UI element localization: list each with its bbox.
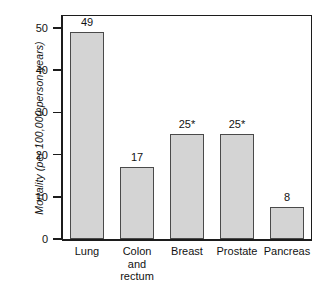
y-axis-tick-label: 40	[26, 65, 48, 76]
bar	[170, 134, 204, 240]
y-axis-tick-label: 0	[26, 234, 48, 245]
y-axis-tick-label: 30	[26, 107, 48, 118]
chart-root: Mortality (per 100,000 person-years) 010…	[0, 0, 324, 294]
y-axis-tick-label-text: 40	[26, 65, 48, 76]
y-axis-tick-label: 50	[26, 23, 48, 34]
bar-value-label: 17	[107, 152, 167, 163]
y-axis-tick-label: 20	[26, 150, 48, 161]
bar	[120, 167, 154, 239]
bar	[70, 32, 104, 239]
bar-value-label: 8	[257, 192, 317, 203]
y-axis-tick-label: 10	[26, 192, 48, 203]
y-axis-tick-label-text: 50	[26, 23, 48, 34]
y-axis-tick-label-text: 20	[26, 150, 48, 161]
x-axis-category-label: Pancreas	[255, 245, 319, 258]
bar-value-label: 49	[57, 17, 117, 28]
y-axis-tick-label-text: 0	[26, 234, 48, 245]
y-axis-tick-label-text: 30	[26, 107, 48, 118]
y-axis-line	[61, 15, 63, 240]
bar	[270, 207, 304, 239]
bar-value-label: 25*	[207, 119, 267, 130]
y-axis-tick-label-text: 10	[26, 192, 48, 203]
bar	[220, 134, 254, 240]
